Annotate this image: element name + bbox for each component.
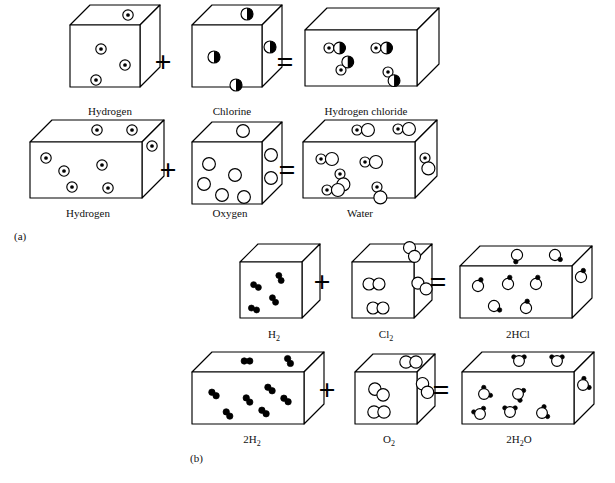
particle-dotted-circle	[147, 141, 157, 151]
oxygen-atom-outline	[238, 191, 251, 204]
hydrogen-atom	[285, 399, 291, 405]
hydrogen-atom-core	[95, 128, 99, 132]
hcl-product-box-top-face	[460, 246, 592, 266]
particle-diatomic-open	[367, 302, 389, 314]
h2-cube-label: H2	[268, 328, 280, 343]
hydrogen-atom	[247, 399, 253, 405]
hydrogen-atom-core	[130, 128, 134, 132]
halogen-atom-outline	[378, 406, 390, 418]
hydrogen-cube-front-face	[70, 25, 140, 87]
hydrogen-atom-core	[374, 46, 378, 50]
hydrogen-atom	[508, 275, 512, 279]
chlorine-atom	[334, 42, 346, 54]
hydrogen-atom-core	[99, 47, 103, 51]
particle-open-circle	[216, 189, 229, 202]
particle-diatomic-solid	[241, 358, 253, 364]
particle-half-circle	[230, 79, 242, 91]
particle-dotted-circle	[59, 166, 69, 176]
particle-ho-pair	[316, 153, 338, 166]
chemistry-diagram-canvas: Hydrogen+Chlorine=Hydrogen chlorideHydro…	[0, 0, 615, 483]
reaction-row-a-row-1: Hydrogen+Chlorine=Hydrogen chloride	[70, 5, 439, 117]
hydrogen-atom-core	[126, 13, 130, 17]
chlorine-atom	[381, 42, 393, 54]
chlorine-atom-outline	[502, 278, 513, 289]
water-product-box-label: 2H2O	[506, 433, 531, 448]
oxygen-atom-outline	[265, 172, 278, 185]
hydrogen-atom	[525, 299, 529, 303]
hydrogen-chloride-box: Hydrogen chloride	[305, 8, 439, 117]
reaction-row-b-row-2: 2H2+O2=2H2O	[192, 352, 594, 448]
hydrogen-cube: Hydrogen	[70, 5, 160, 117]
chlorine-atom	[208, 51, 220, 63]
water-box-label: Water	[347, 207, 373, 219]
oxygen-atom-outline	[265, 149, 278, 162]
chlorine-atom-outline	[530, 278, 541, 289]
particle-dotted-circle	[120, 60, 130, 70]
oxygen-atom-outline	[216, 189, 229, 202]
chlorine-atom	[388, 75, 400, 87]
hydrogen-atom	[273, 299, 279, 305]
oxygen-atom-outline	[402, 123, 415, 136]
plus-operator: +	[318, 373, 335, 406]
hydrogen-cube-label: Hydrogen	[88, 105, 132, 117]
equals-operator: =	[278, 153, 295, 186]
hydrogen-atom	[254, 307, 260, 313]
o2-cube: O2	[355, 354, 435, 448]
cl2-cube: Cl2	[352, 242, 432, 343]
water-box-front-face	[303, 142, 415, 198]
panel-marker-b: (b)	[190, 452, 203, 465]
hydrogen-wide-box-front-face	[30, 142, 142, 198]
plus-operator: +	[154, 45, 171, 78]
particle-dotted-circle	[91, 75, 101, 85]
hydrogen-atom-core	[339, 68, 343, 72]
oxygen-atom-outline	[374, 191, 387, 204]
hydrogen-atom-core	[363, 160, 367, 164]
h2-wide-box-container	[192, 352, 324, 424]
equals-operator: =	[276, 45, 293, 78]
water-product-box: 2H2O	[462, 352, 594, 448]
particle-hcl-pair	[324, 42, 345, 54]
hydrogen-atom-core	[327, 46, 331, 50]
hydrogen-atom-core	[70, 185, 74, 189]
chlorine-cube-front-face	[192, 25, 262, 87]
plus-operator: +	[159, 153, 176, 186]
hydrogen-atom-core	[386, 70, 390, 74]
hydrogen-atom	[255, 284, 261, 290]
chlorine-atom-outline	[575, 271, 586, 282]
hydrogen-atom-core	[150, 144, 154, 148]
hydrogen-atom	[278, 277, 284, 283]
hydrogen-atom	[227, 413, 233, 419]
chlorine-atom	[342, 56, 354, 68]
panel-marker-a: (a)	[14, 230, 27, 243]
particle-open-circle	[198, 178, 211, 191]
particle-open-circle	[265, 172, 278, 185]
oxygen-atom-outline	[198, 178, 211, 191]
equals-operator: =	[429, 265, 446, 298]
hydrogen-cube-container	[70, 5, 160, 87]
chlorine-cube-label: Chlorine	[213, 105, 252, 117]
oxygen-atom-outline	[513, 389, 524, 400]
oxygen-atom-outline	[475, 409, 486, 420]
hydrogen-atom-core	[62, 169, 66, 173]
particle-dotted-circle	[127, 125, 137, 135]
hydrogen-atom-core	[325, 188, 329, 192]
water-box: Water	[303, 120, 437, 219]
oxygen-atom-outline	[505, 407, 516, 418]
oxygen-atom-outline	[537, 408, 548, 419]
oxygen-atom-outline	[203, 158, 216, 171]
halogen-atom-outline	[373, 278, 385, 290]
hydrogen-wide-box-label: Hydrogen	[66, 207, 110, 219]
hydrogen-atom-core	[375, 185, 379, 189]
particle-open-circle	[238, 191, 251, 204]
plus-operator: +	[313, 265, 330, 298]
hydrogen-atom	[247, 358, 253, 364]
chlorine-atom	[241, 8, 253, 20]
chlorine-atom-outline	[520, 302, 531, 313]
hydrogen-atom-core	[44, 156, 48, 160]
oxygen-atom-outline	[361, 124, 374, 137]
oxygen-cube-label: Oxygen	[213, 207, 248, 219]
halogen-atom-outline	[409, 250, 421, 262]
particle-diatomic-open	[363, 278, 385, 290]
oxygen-atom-outline	[229, 169, 242, 182]
particle-dotted-circle	[92, 125, 102, 135]
